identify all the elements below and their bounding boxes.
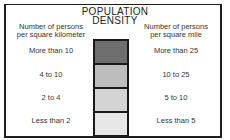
swatch-2-to-4 xyxy=(93,87,129,111)
swatch-more-than-10 xyxy=(93,39,129,63)
row-label-mi-2: 5 to 10 xyxy=(136,94,216,102)
row-label-mi-3: Less than 5 xyxy=(136,117,216,125)
right-header-line2: per square mile xyxy=(136,31,216,39)
right-column-header: Number of persons per square mile xyxy=(136,23,216,39)
left-column-header: Number of persons per square kilometer xyxy=(10,23,92,39)
row-label-mi-1: 10 to 25 xyxy=(136,71,216,79)
swatch-less-than-2 xyxy=(93,111,129,137)
left-header-line2: per square kilometer xyxy=(10,31,92,39)
swatch-4-to-10 xyxy=(93,63,129,87)
row-label-km-1: 4 to 10 xyxy=(10,71,92,79)
row-label-km-2: 2 to 4 xyxy=(10,94,92,102)
row-label-km-0: More than 10 xyxy=(10,47,92,55)
row-label-km-3: Less than 2 xyxy=(10,117,92,125)
color-swatch-column xyxy=(93,39,129,137)
row-label-mi-0: More than 25 xyxy=(136,47,216,55)
